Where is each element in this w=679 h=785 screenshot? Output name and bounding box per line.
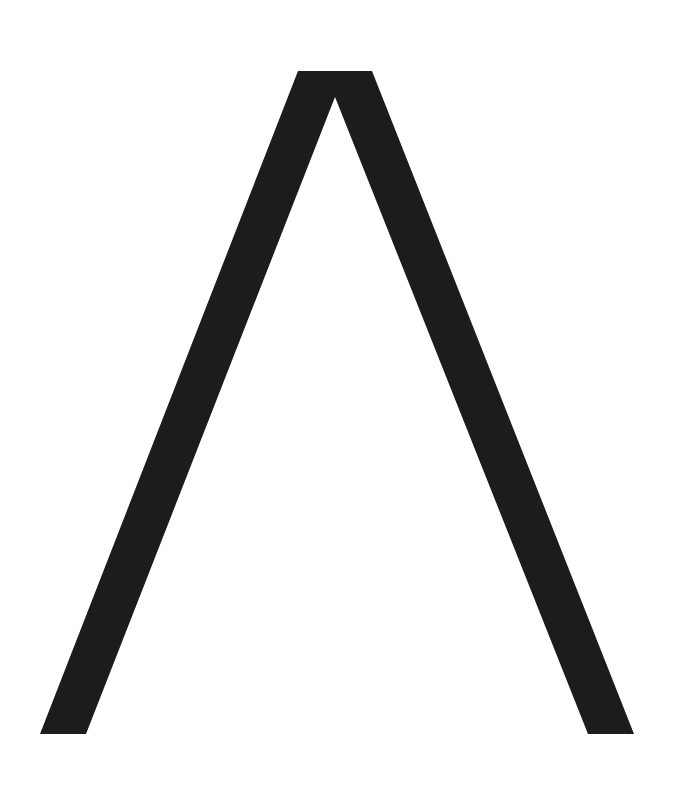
lambda-glyph-icon <box>0 0 679 785</box>
glyph-canvas: Λ <box>0 0 679 785</box>
